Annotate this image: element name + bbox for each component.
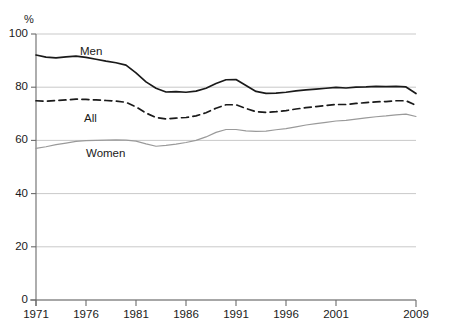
- labour-participation-line-chart: % 020406080100 1971197619811986199119962…: [0, 0, 451, 326]
- y-tick-label-0: 0: [0, 294, 28, 305]
- x-tick-label-1986: 1986: [164, 308, 208, 320]
- series-label-men: Men: [80, 45, 102, 57]
- x-tick-label-1996: 1996: [264, 308, 308, 320]
- y-tick-label-20: 20: [0, 241, 28, 252]
- x-tick-label-2001: 2001: [314, 308, 358, 320]
- y-tick-label-40: 40: [0, 188, 28, 199]
- y-tick-label-100: 100: [0, 28, 28, 39]
- x-tick-label-1971: 1971: [14, 308, 58, 320]
- y-tick-label-60: 60: [0, 134, 28, 145]
- axis-lines-group: [30, 34, 416, 306]
- plot-canvas: [0, 0, 451, 326]
- series-label-all: All: [84, 112, 97, 124]
- data-series-group: [36, 55, 416, 148]
- series-line-men: [36, 55, 416, 94]
- x-tick-label-1981: 1981: [114, 308, 158, 320]
- tick-marks-group: [31, 34, 416, 307]
- gridlines-group: [36, 34, 416, 300]
- x-tick-label-2009: 2009: [394, 308, 438, 320]
- series-label-women: Women: [86, 147, 125, 159]
- y-tick-label-80: 80: [0, 81, 28, 92]
- x-tick-label-1976: 1976: [64, 308, 108, 320]
- x-tick-label-1991: 1991: [214, 308, 258, 320]
